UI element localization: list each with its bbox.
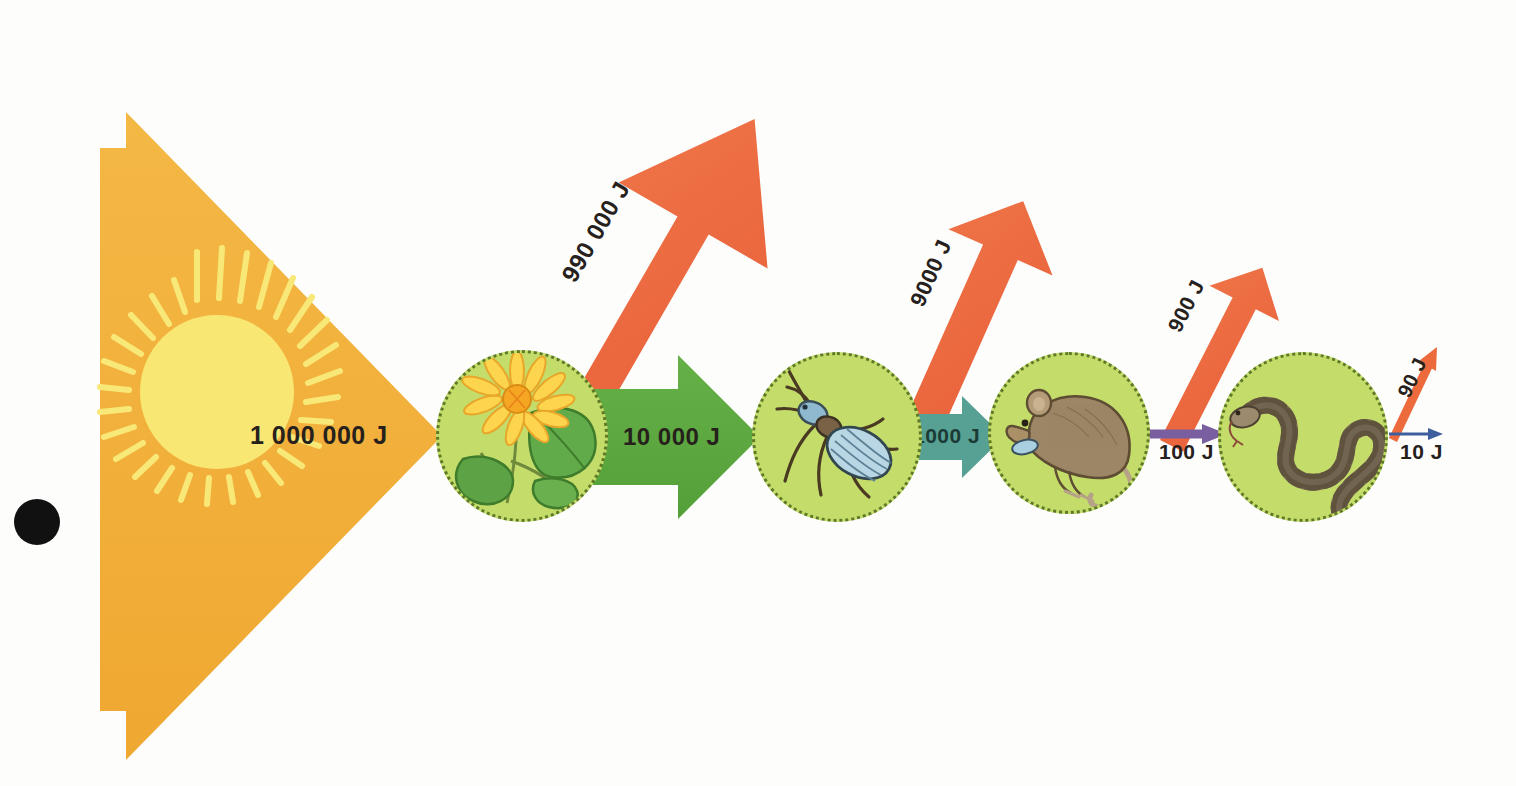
node-beetle[interactable] xyxy=(752,352,922,522)
node-snake[interactable] xyxy=(1218,352,1388,522)
node-plant[interactable] xyxy=(436,350,608,522)
snake-icon xyxy=(1221,355,1388,522)
flower-icon xyxy=(439,353,608,522)
mouse-icon xyxy=(991,355,1150,514)
transfer-arrow-snake xyxy=(1389,428,1443,440)
transfer-snake-label: 10 J xyxy=(1400,440,1443,464)
node-mouse[interactable] xyxy=(988,352,1150,514)
beetle-icon xyxy=(755,355,922,522)
energy-flow-diagram: 1 000 000 J 990 000 J 10 000 J 9000 J 10… xyxy=(0,0,1516,786)
